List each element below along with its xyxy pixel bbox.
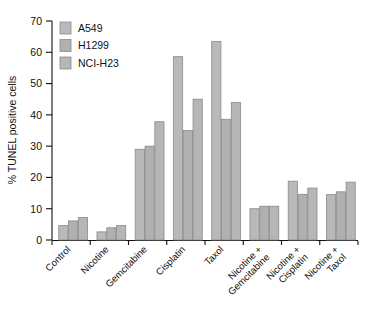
category-label-2: Nicotine [78,244,110,276]
legend-swatch-h1299 [60,40,71,52]
y-tick-label: 30 [30,140,42,152]
y-axis-title: % TUNEL positive cells [6,76,18,185]
bar-h1299-8 [336,192,345,240]
bar-a549-8 [326,195,335,240]
category-label-line1: Cisplatin [153,244,187,278]
y-axis-title-text: % TUNEL positive cells [6,76,18,185]
y-tick-label: 50 [30,77,42,89]
x-axis-category-labels: ControlNicotineGemcitabineCisplatinTaxol… [43,243,348,297]
bar-nci-h23-1 [78,217,87,240]
y-tick-label: 60 [30,46,42,58]
category-label-line1: Taxol [202,244,226,268]
bar-nci-h23-6 [270,206,279,240]
bar-a549-2 [97,232,106,240]
legend-label-nci-h23: NCI-H23 [78,57,119,69]
legend-label-h1299: H1299 [78,39,109,51]
y-tick-label: 10 [30,203,42,215]
category-label-8: Nicotine +Taxol [302,243,348,289]
bar-nci-h23-4 [193,99,202,240]
bar-nci-h23-7 [308,188,317,240]
chart-legend: A549H1299NCI-H23 [60,22,119,69]
bar-h1299-1 [69,221,78,240]
bar-h1299-2 [107,228,116,240]
legend-label-a549: A549 [78,22,103,34]
category-label-3: Gemcitabine [103,244,149,290]
bar-a549-5 [212,41,221,240]
category-label-5: Taxol [202,244,226,268]
bar-h1299-7 [298,194,307,240]
bar-nci-h23-5 [231,102,240,240]
category-label-line1: Control [43,244,73,274]
y-tick-label: 0 [36,234,42,246]
y-axis-ticks: 010203040506070 [30,15,52,246]
bar-h1299-5 [222,119,231,240]
legend-swatch-a549 [60,22,71,34]
bar-nci-h23-8 [346,182,355,240]
chart-canvas: % TUNEL positive cells 010203040506070 A… [0,0,365,319]
bar-nci-h23-2 [117,226,126,240]
category-label-7: Nicotine +Cisplatin [264,243,310,289]
y-tick-label: 40 [30,109,42,121]
bar-h1299-6 [260,206,269,240]
bar-h1299-4 [183,131,192,241]
x-axis-ticks [52,241,358,245]
y-tick-label: 70 [30,15,42,27]
y-tick-label: 20 [30,171,42,183]
legend-swatch-nci-h23 [60,57,71,69]
category-label-6: Nicotine +Gemcitabine [218,243,272,297]
bar-a549-7 [288,181,297,240]
bar-a549-6 [250,209,259,240]
bar-a549-4 [173,57,182,240]
category-label-line1: Nicotine [78,244,110,276]
bar-a549-1 [59,226,68,240]
category-label-line1: Gemcitabine [103,244,149,290]
category-label-4: Cisplatin [153,244,187,278]
bar-nci-h23-3 [155,122,164,240]
bar-h1299-3 [145,146,154,240]
tunel-bar-chart: % TUNEL positive cells 010203040506070 A… [0,0,365,319]
bars-group [59,41,356,240]
category-label-1: Control [43,244,73,274]
bar-a549-3 [135,149,144,240]
